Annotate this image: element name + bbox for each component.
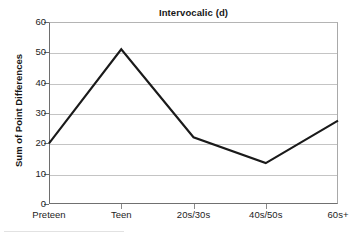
y-axis-tick-label: 10 [6,169,46,179]
x-axis-tick-label: 20s/30s [177,210,210,220]
data-polyline [49,49,338,163]
y-axis-tick-label: 40 [6,78,46,88]
chart-title: Intervocalic (d) [49,7,338,18]
y-axis-tick-label: 30 [6,108,46,118]
x-axis-tick-label: 40s/50s [249,210,282,220]
x-axis-tick-label: Teen [111,210,132,220]
x-axis-tick-label: Preteen [32,210,65,220]
x-axis-tick-mark [121,204,122,209]
y-axis-tick-label: 60 [6,17,46,27]
y-axis-tick-label: 50 [6,47,46,57]
data-series-line [49,22,338,204]
line-chart-figure: Intervocalic (d) Sum of Point Difference… [0,0,353,236]
x-axis-tick-mark [266,204,267,209]
scan-artifact-line [4,231,124,232]
x-axis-tick-label: 60s+ [328,210,349,220]
y-axis-tick-label: 20 [6,138,46,148]
x-axis-tick-mark [194,204,195,209]
y-axis-tick-label: 0 [6,199,46,209]
